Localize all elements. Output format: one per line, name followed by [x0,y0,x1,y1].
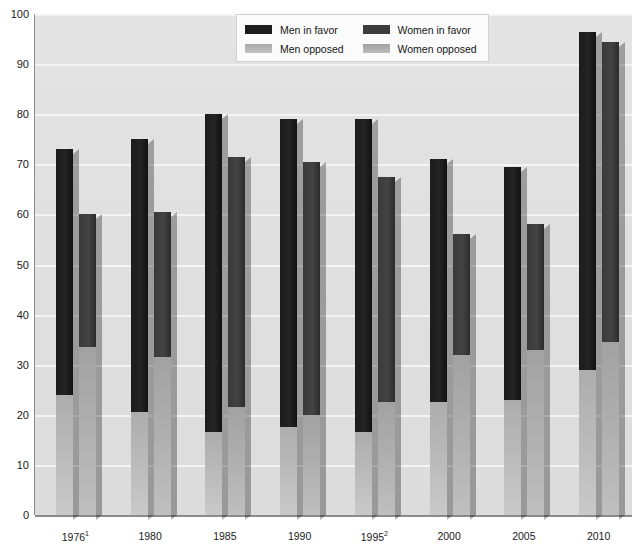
bar-women [79,214,96,515]
bar-segment-opposed [131,412,148,515]
plot-area [34,14,632,515]
y-axis-tick-label: 60 [17,208,29,220]
bar-segment-in-favor [79,214,96,347]
bar-men [504,167,521,515]
bar-group [579,15,620,515]
legend-label: Men opposed [280,43,344,55]
bar-segment-opposed [79,347,96,515]
bar-men [205,114,222,515]
bar-segment-in-favor [303,162,320,415]
bar-segment-opposed [154,357,171,515]
bar-segment-in-favor [355,119,372,432]
bars-layer [35,15,632,515]
x-axis-tick-label: 2000 [437,530,460,542]
bar-segment-opposed [228,407,245,515]
x-axis-tick-label: 2005 [512,530,535,542]
legend-item-women-opposed: Women opposed [363,43,481,55]
y-axis-tick-label: 10 [17,459,29,471]
bar-men [56,149,73,515]
y-axis-tick-label: 0 [23,509,29,521]
bar-segment-in-favor [378,177,395,402]
y-axis-tick-label: 70 [17,158,29,170]
bar-side-shadow [470,234,476,520]
x-axis-tick-label: 19952 [361,530,388,543]
bar-segment-opposed [602,342,619,515]
legend-row: Men opposed Women opposed [245,39,480,58]
y-axis-tick-label: 90 [17,58,29,70]
legend-swatch-icon [363,25,390,34]
legend-item-men-opposed: Men opposed [245,43,363,55]
bar-side-shadow [619,42,625,520]
legend-item-women-in-favor: Women in favor [363,24,481,36]
bar-side-shadow [395,177,401,520]
y-axis-tick-label: 20 [17,409,29,421]
bar-chart: 0102030405060708090100 19761198019851990… [0,0,638,560]
bar-segment-in-favor [205,114,222,432]
bar-segment-opposed [453,355,470,515]
bar-segment-opposed [303,415,320,515]
legend-label: Women in favor [398,24,471,36]
gridline [35,515,632,517]
bar-men [430,159,447,515]
y-axis-tick-label: 80 [17,108,29,120]
x-axis-tick-label: 19761 [62,530,89,543]
bar-women [378,177,395,515]
y-axis-tick-label: 100 [11,8,29,20]
bar-men [280,119,297,515]
x-axis: 1976119801985199019952200020052010 [34,519,632,549]
bar-segment-in-favor [430,159,447,402]
bar-group [430,15,471,515]
bar-segment-in-favor [453,234,470,354]
bar-group [355,15,396,515]
bar-segment-opposed [205,432,222,515]
bar-women [453,234,470,515]
chart-legend: Men in favor Women in favor Men opposed … [236,14,489,62]
bar-women [527,224,544,515]
bar-segment-in-favor [154,212,171,357]
bar-men [355,119,372,515]
bar-segment-in-favor [131,139,148,412]
bar-side-shadow [320,162,326,520]
x-axis-tick-label: 1980 [138,530,161,542]
y-axis-tick-label: 50 [17,259,29,271]
bar-segment-in-favor [56,149,73,394]
bar-segment-opposed [527,350,544,515]
bar-side-shadow [171,212,177,520]
bar-segment-opposed [280,427,297,515]
legend-swatch-icon [245,44,272,53]
bar-segment-in-favor [228,157,245,408]
bar-segment-in-favor [504,167,521,400]
x-axis-tick-label: 1990 [288,530,311,542]
bar-women [303,162,320,515]
bar-women [228,157,245,515]
legend-label: Women opposed [398,43,477,55]
bar-group [205,15,246,515]
bar-men [131,139,148,515]
legend-label: Men in favor [280,24,338,36]
bar-side-shadow [544,224,550,520]
legend-row: Men in favor Women in favor [245,20,480,39]
y-axis: 0102030405060708090100 [0,0,34,515]
bar-group [131,15,172,515]
bar-segment-in-favor [280,119,297,427]
bar-segment-opposed [430,402,447,515]
bar-women [602,42,619,515]
bar-group [280,15,321,515]
bar-segment-opposed [579,370,596,515]
y-axis-tick-label: 30 [17,359,29,371]
bar-men [579,32,596,515]
bar-segment-opposed [56,395,73,515]
bar-women [154,212,171,515]
bar-segment-in-favor [579,32,596,370]
bar-segment-opposed [378,402,395,515]
bar-segment-in-favor [527,224,544,349]
bar-side-shadow [245,157,251,520]
x-axis-tick-label: 1985 [213,530,236,542]
bar-segment-in-favor [602,42,619,343]
bar-group [56,15,97,515]
bar-segment-opposed [355,432,372,515]
legend-item-men-in-favor: Men in favor [245,24,363,36]
x-axis-tick-label: 2010 [587,530,610,542]
bar-side-shadow [96,214,102,520]
legend-swatch-icon [363,44,390,53]
